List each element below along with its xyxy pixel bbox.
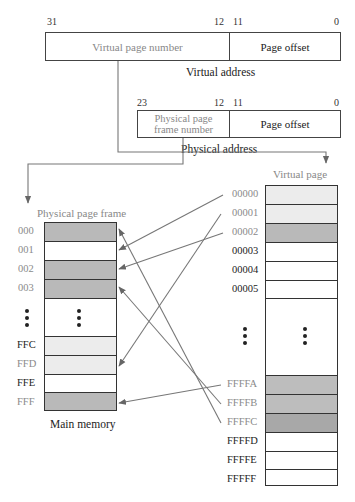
vpn-to-virtual-page-line bbox=[118, 61, 326, 163]
pfn-to-frame-line bbox=[28, 138, 183, 203]
map-00001-to-FFD bbox=[119, 214, 221, 366]
map-FFFFB-to-003 bbox=[119, 287, 221, 404]
connector-lines bbox=[0, 0, 355, 502]
map-00002-to-002 bbox=[119, 233, 223, 269]
map-00000-to-001 bbox=[119, 195, 223, 250]
